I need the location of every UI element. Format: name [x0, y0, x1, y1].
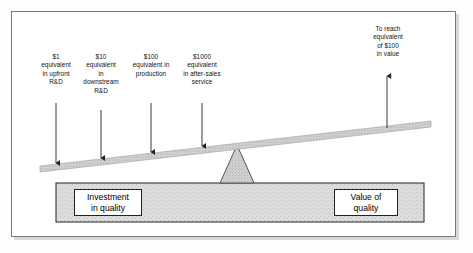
value-of-quality-box: Value of quality — [334, 189, 398, 216]
callout-value-target: To reach equivalent of $100 in value — [359, 25, 417, 59]
diagram-figure: $1 equivalent in upfront R&D $10 equival… — [0, 0, 473, 253]
investment-in-quality-box: Investment in quality — [74, 189, 142, 216]
callout-after-sales-service: $1000 equivalent in after-sales service — [172, 53, 232, 87]
